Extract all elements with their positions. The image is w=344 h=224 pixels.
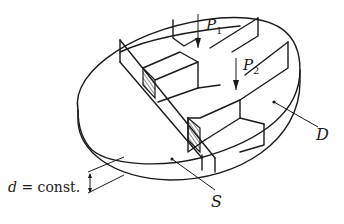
plate-diagram: P1 P2 D S d = const. [0,0,344,224]
section-cut [120,40,215,172]
load-arrow-p2 [233,58,239,90]
label-p2: P2 [242,56,259,76]
leader-d [272,100,318,127]
leader-s [170,157,215,190]
plate-outline [77,18,300,180]
label-thickness: d = const. [8,179,80,195]
label-boundary: S [211,192,222,211]
label-domain: D [315,125,329,144]
label-p1: P1 [205,16,222,36]
thickness-dimension [88,157,124,193]
